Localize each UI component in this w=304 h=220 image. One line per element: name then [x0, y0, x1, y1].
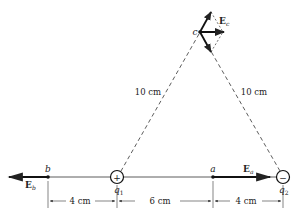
dashed-line-c-q1 — [121, 34, 199, 171]
charge-q2-sign: − — [279, 173, 287, 183]
distance-a-q2-label: 4 cm — [236, 196, 257, 206]
distance-c-q2-label: 10 cm — [241, 87, 267, 97]
charge-q2: − — [277, 171, 290, 184]
point-c-dot — [198, 30, 202, 34]
parallelogram-dash-bottom — [211, 32, 223, 52]
charge-q1-sign: + — [113, 173, 121, 183]
charge-q1-label: q1 — [114, 185, 124, 196]
field-Ea-label: Ea — [243, 164, 254, 175]
point-b-label: b — [45, 164, 51, 174]
dashed-line-c-q2 — [201, 34, 280, 171]
field-arrow-c-from-q1 — [200, 12, 211, 32]
field-arrow-c-to-q2 — [200, 32, 211, 52]
charge-q1: + — [111, 171, 124, 184]
charge-q2-label: q2 — [279, 185, 289, 196]
field-Eb-label: Eb — [25, 180, 36, 191]
point-b-dot — [46, 175, 50, 179]
field-Ec-label: Ec — [219, 16, 230, 27]
point-a-dot — [211, 175, 215, 179]
distance-c-q1-label: 10 cm — [135, 87, 161, 97]
point-c-label: c — [192, 27, 197, 37]
distance-q1-a-label: 6 cm — [150, 196, 171, 206]
point-a-label: a — [210, 164, 215, 174]
diagram-canvas: + − 4 cm 6 cm 4 cm 10 cm 10 cm b a c q1 … — [0, 0, 304, 220]
distance-b-q1-label: 4 cm — [70, 196, 91, 206]
